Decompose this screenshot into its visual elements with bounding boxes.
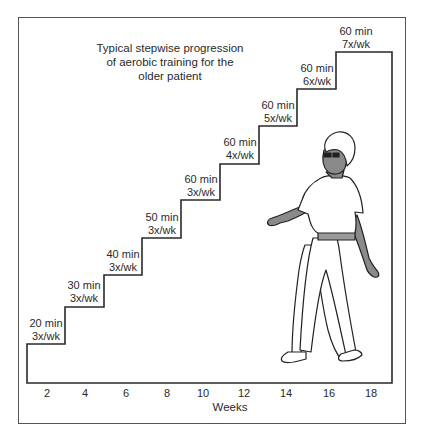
- step-duration: 60 min: [334, 25, 378, 38]
- step-frequency: 4x/wk: [218, 149, 262, 162]
- x-axis-label: Weeks: [205, 401, 255, 413]
- x-tick-8: 8: [157, 387, 177, 399]
- x-tick-2: 2: [37, 387, 57, 399]
- step-label-1: 20 min 3x/wk: [24, 317, 68, 343]
- step-duration: 40 min: [101, 248, 145, 261]
- step-label-4: 50 min 3x/wk: [140, 211, 184, 237]
- x-tick-14: 14: [276, 387, 296, 399]
- x-tick-12: 12: [234, 387, 254, 399]
- x-tick-16: 16: [319, 387, 339, 399]
- step-frequency: 3x/wk: [140, 224, 184, 237]
- x-tick-6: 6: [116, 387, 136, 399]
- step-frequency: 6x/wk: [295, 75, 339, 88]
- stepwise-progression-figure: Typical stepwise progression of aerobic …: [0, 0, 421, 436]
- step-label-8: 60 min 6x/wk: [295, 62, 339, 88]
- step-frequency: 7x/wk: [334, 38, 378, 51]
- step-frequency: 5x/wk: [256, 112, 300, 125]
- step-label-6: 60 min 4x/wk: [218, 136, 262, 162]
- walking-woman-illustration: [268, 132, 379, 363]
- x-tick-10: 10: [193, 387, 213, 399]
- step-frequency: 3x/wk: [62, 292, 106, 305]
- step-label-7: 60 min 5x/wk: [256, 99, 300, 125]
- step-frequency: 3x/wk: [101, 261, 145, 274]
- x-tick-4: 4: [75, 387, 95, 399]
- step-label-5: 60 min 3x/wk: [179, 173, 223, 199]
- step-label-3: 40 min 3x/wk: [101, 248, 145, 274]
- step-duration: 20 min: [24, 317, 68, 330]
- step-label-9: 60 min 7x/wk: [334, 25, 378, 51]
- step-duration: 30 min: [62, 279, 106, 292]
- step-label-2: 30 min 3x/wk: [62, 279, 106, 305]
- step-duration: 50 min: [140, 211, 184, 224]
- step-frequency: 3x/wk: [179, 186, 223, 199]
- step-duration: 60 min: [179, 173, 223, 186]
- x-tick-18: 18: [361, 387, 381, 399]
- staircase-svg: [0, 0, 421, 436]
- step-duration: 60 min: [295, 62, 339, 75]
- step-frequency: 3x/wk: [24, 330, 68, 343]
- step-duration: 60 min: [218, 136, 262, 149]
- step-duration: 60 min: [256, 99, 300, 112]
